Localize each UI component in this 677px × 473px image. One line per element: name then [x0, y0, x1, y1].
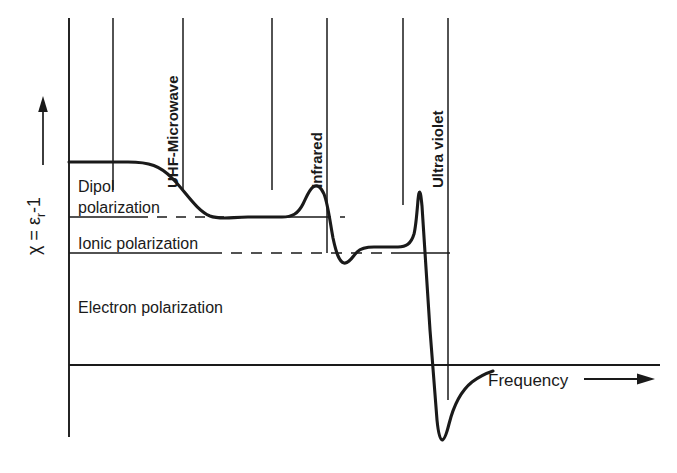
band-label-infrared: Infrared: [308, 132, 325, 188]
x-axis-label-text: Frequency: [488, 371, 569, 390]
dielectric-polarization-figure: UHF-Microwave Infrared Ultra violet Dipo…: [0, 0, 677, 473]
y-axis-label-tail: -1: [24, 197, 44, 213]
svg-text:χ = εr-1: χ = εr-1: [24, 197, 48, 255]
region-label-dipol-line1: Dipol: [78, 178, 114, 195]
region-label-electron: Electron polarization: [78, 299, 223, 316]
y-axis-arrow-icon: [38, 96, 48, 165]
chart-canvas: UHF-Microwave Infrared Ultra violet Dipo…: [0, 0, 677, 473]
band-label-uhf-microwave-text: UHF-Microwave: [164, 75, 181, 188]
region-label-dipol-line2: polarization: [78, 199, 160, 216]
band-label-ultra-violet-text: Ultra violet: [429, 110, 446, 188]
x-axis-arrow-icon: [584, 373, 655, 384]
region-label-ionic: Ionic polarization: [78, 235, 198, 252]
band-label-infrared-text: Infrared: [308, 132, 325, 188]
region-label-electron-text: Electron polarization: [78, 299, 223, 316]
band-divider-lines: [113, 18, 448, 400]
band-label-uhf-microwave: UHF-Microwave: [164, 75, 181, 188]
region-label-ionic-text: Ionic polarization: [78, 235, 198, 252]
band-label-ultra-violet: Ultra violet: [429, 110, 446, 188]
y-axis-label-main: χ = ε: [24, 217, 44, 255]
y-axis-label-group: χ = εr-1: [24, 197, 48, 255]
region-label-dipol: Dipol polarization: [78, 178, 160, 216]
